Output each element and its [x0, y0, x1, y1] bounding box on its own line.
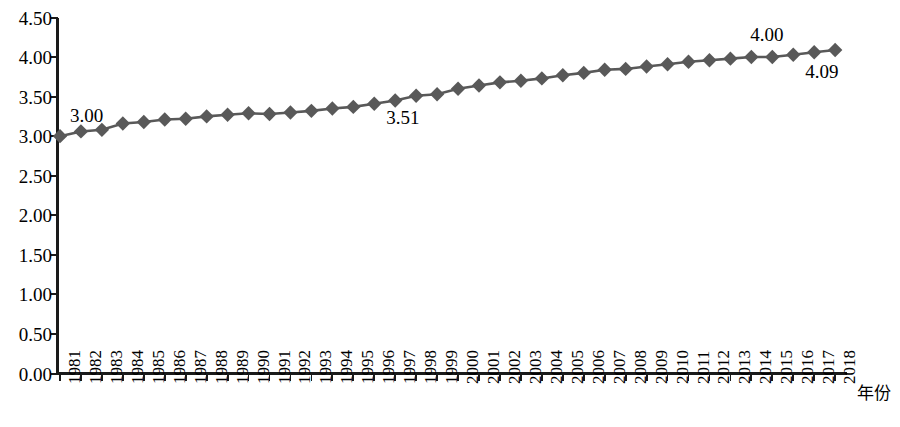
- data-point-marker: [346, 100, 360, 114]
- data-point-marker: [158, 112, 172, 126]
- x-axis-tick-label: 1991: [276, 350, 293, 384]
- x-axis-tick-label: 2005: [569, 350, 586, 384]
- x-axis-tick-label: 1982: [87, 350, 104, 384]
- data-point-marker: [388, 93, 402, 107]
- x-axis-tick-label: 1987: [192, 350, 209, 384]
- x-axis-tick-label: 1986: [171, 350, 188, 384]
- data-point-marker: [409, 89, 423, 103]
- x-axis-tick-label: 1983: [108, 350, 125, 384]
- y-axis-tick-label: 0.50: [0, 325, 52, 344]
- x-axis-tick-label: 1998: [422, 350, 439, 384]
- x-axis-tick-label: 1981: [66, 350, 83, 384]
- x-axis-tick-label: 2010: [674, 350, 691, 384]
- chart-container: 0.000.501.001.502.002.503.003.504.004.50…: [0, 0, 900, 427]
- x-axis-tick-label: 2006: [590, 350, 607, 384]
- data-point-marker: [325, 101, 339, 115]
- data-point-marker: [451, 82, 465, 96]
- data-point-value-label: 3.00: [70, 106, 103, 125]
- x-axis-tick-label: 2018: [841, 350, 858, 384]
- data-point-marker: [179, 112, 193, 126]
- x-axis-tick-label: 2012: [715, 350, 732, 384]
- y-axis-tick-label: 1.50: [0, 246, 52, 265]
- x-axis-tick-label: 2001: [485, 350, 502, 384]
- x-axis-tick-label: 2000: [464, 350, 481, 384]
- x-axis-tick-label: 2015: [778, 350, 795, 384]
- data-point-value-label: 4.00: [750, 25, 783, 44]
- x-axis-tick-label: 2002: [506, 350, 523, 384]
- y-axis-tick-label: 1.00: [0, 285, 52, 304]
- data-point-marker: [304, 104, 318, 118]
- y-axis-tick-label: 4.00: [0, 48, 52, 67]
- data-point-marker: [137, 115, 151, 129]
- data-point-marker: [283, 105, 297, 119]
- data-point-marker: [199, 109, 213, 123]
- x-axis-tick-label: 1988: [213, 350, 230, 384]
- data-point-marker: [702, 53, 716, 67]
- x-axis-tick-label: 2017: [820, 350, 837, 384]
- data-point-marker: [786, 47, 800, 61]
- x-axis-tick-label: 1992: [296, 350, 313, 384]
- data-point-marker: [493, 75, 507, 89]
- x-axis-tick-label: 1985: [150, 350, 167, 384]
- series-polyline: [60, 50, 835, 136]
- data-point-marker: [660, 57, 674, 71]
- data-point-marker: [241, 106, 255, 120]
- y-axis-tick-label: 2.00: [0, 206, 52, 225]
- x-axis-tick-label: 1984: [129, 350, 146, 384]
- data-point-marker: [116, 116, 130, 130]
- data-point-marker: [765, 50, 779, 64]
- data-point-marker: [53, 129, 67, 143]
- x-axis-tick-label: 1995: [359, 350, 376, 384]
- y-axis-tick-label: 3.00: [0, 127, 52, 146]
- data-point-value-label: 4.09: [805, 62, 838, 81]
- x-axis-tick-label: 2014: [757, 350, 774, 384]
- data-series-line: [60, 50, 835, 136]
- data-point-marker: [556, 68, 570, 82]
- data-point-marker: [828, 43, 842, 57]
- y-axis-tick-label: 3.50: [0, 88, 52, 107]
- x-axis-tick-label: 2011: [695, 350, 712, 383]
- x-axis-tick-label: 2004: [548, 350, 565, 384]
- y-axis-tick-label: 4.50: [0, 9, 52, 28]
- data-point-marker: [220, 108, 234, 122]
- x-axis-tick-label: 1999: [443, 350, 460, 384]
- chart-axes: [51, 18, 848, 381]
- data-point-marker: [639, 59, 653, 73]
- y-axis-tick-label: 2.50: [0, 167, 52, 186]
- data-point-value-label: 3.51: [386, 108, 419, 127]
- y-axis-tick-label: 0.00: [0, 365, 52, 384]
- x-axis-title: 年份: [857, 385, 891, 402]
- x-axis-tick-label: 1993: [317, 350, 334, 384]
- x-axis-tick-label: 1997: [401, 350, 418, 384]
- x-axis-tick-label: 2013: [736, 350, 753, 384]
- data-point-marker: [744, 50, 758, 64]
- data-point-marker: [514, 74, 528, 88]
- x-axis-tick-label: 1989: [234, 350, 251, 384]
- data-point-marker: [807, 45, 821, 59]
- data-point-marker: [681, 55, 695, 69]
- data-point-marker: [577, 66, 591, 80]
- x-axis-tick-label: 2009: [653, 350, 670, 384]
- x-axis-tick-label: 2007: [611, 350, 628, 384]
- data-point-marker: [618, 62, 632, 76]
- data-point-marker: [535, 71, 549, 85]
- data-point-marker: [598, 63, 612, 77]
- data-point-marker: [262, 107, 276, 121]
- data-point-marker: [472, 78, 486, 92]
- data-point-marker: [430, 87, 444, 101]
- x-axis-tick-label: 2008: [632, 350, 649, 384]
- x-axis-tick-label: 1994: [338, 350, 355, 384]
- data-point-marker: [367, 97, 381, 111]
- data-point-marker: [74, 124, 88, 138]
- x-axis-tick-label: 1996: [380, 350, 397, 384]
- x-axis-tick-label: 1990: [255, 350, 272, 384]
- x-axis-tick-label: 2003: [527, 350, 544, 384]
- x-axis-tick-label: 2016: [799, 350, 816, 384]
- data-point-marker: [723, 51, 737, 65]
